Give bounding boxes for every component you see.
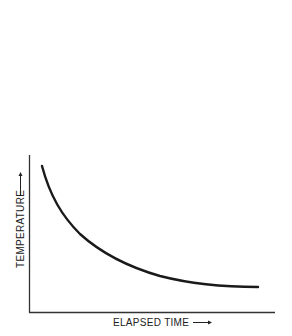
x-axis-label: ELAPSED TIME bbox=[113, 317, 189, 328]
temperature-curve bbox=[42, 166, 258, 287]
x-axis-arrow-icon bbox=[193, 321, 212, 325]
cooling-curve-diagram: ELAPSED TIME TEMPERATURE bbox=[0, 0, 292, 336]
y-axis-label: TEMPERATURE bbox=[15, 190, 26, 268]
